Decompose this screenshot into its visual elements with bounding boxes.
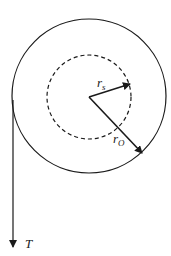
tension-label: T xyxy=(25,236,33,251)
inner-radius-arrow xyxy=(89,84,130,97)
pulley-diagram: rs rO T xyxy=(0,0,171,256)
inner-radius-label: rs xyxy=(97,75,106,92)
outer-circle xyxy=(12,19,166,173)
